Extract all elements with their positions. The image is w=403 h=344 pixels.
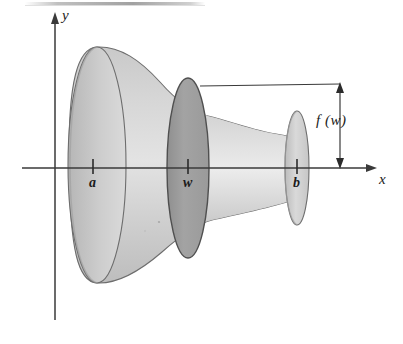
- x-axis-label: x: [379, 172, 386, 187]
- scan-artifact-smudge: [25, 2, 205, 6]
- y-axis-label: y: [62, 8, 69, 23]
- surface-speck: [158, 221, 160, 223]
- fw-leader-line: [200, 84, 340, 86]
- x-axis-arrowhead: [366, 164, 377, 172]
- tick-label-a: a: [89, 176, 96, 190]
- calculus-solid-of-revolution-figure: y x a w b f (w): [0, 0, 403, 344]
- tick-label-b: b: [293, 176, 300, 190]
- figure-canvas: [0, 0, 403, 344]
- y-axis-arrowhead: [51, 12, 59, 24]
- fw-dimension-label: f (w): [316, 113, 346, 128]
- tick-label-w: w: [183, 176, 192, 190]
- surface-speck: [144, 230, 145, 231]
